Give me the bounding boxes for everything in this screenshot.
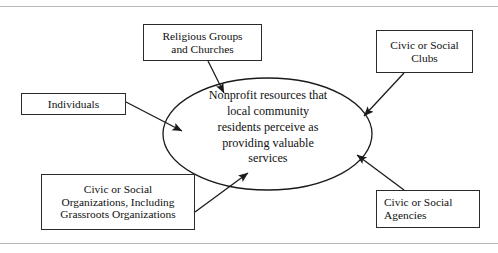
node-organizations-line-2: Organizations, Including	[61, 196, 174, 209]
node-civic-or-social-clubs[interactable]: Civic or Social Clubs	[376, 30, 473, 73]
edge-agencies-to-center	[357, 155, 404, 190]
center-ellipse-label: Nonprofit resources that local community…	[178, 88, 358, 167]
node-civic-or-social-agencies[interactable]: Civic or Social Agencies	[376, 190, 480, 228]
node-clubs-line-2: Clubs	[411, 52, 438, 65]
center-line-4: providing valuable	[178, 136, 358, 152]
node-religious-line-1: Religious Groups	[162, 30, 242, 43]
node-individuals-line-1: Individuals	[48, 98, 99, 111]
node-civic-or-social-organizations[interactable]: Civic or Social Organizations, Including…	[41, 174, 195, 230]
node-individuals[interactable]: Individuals	[21, 93, 126, 115]
node-organizations-line-3: Grassroots Organizations	[60, 208, 175, 221]
node-religious-line-2: and Churches	[171, 43, 233, 56]
edge-clubs-to-center	[364, 73, 404, 116]
center-line-3: residents perceive as	[178, 120, 358, 136]
figure-container: Nonprofit resources that local community…	[0, 0, 498, 253]
center-line-1: Nonprofit resources that	[178, 88, 358, 104]
node-organizations-line-1: Civic or Social	[84, 183, 152, 196]
node-agencies-line-1: Civic or Social	[384, 196, 452, 209]
center-line-5: services	[178, 151, 358, 167]
node-agencies-line-2: Agencies	[384, 209, 426, 222]
node-religious-groups-and-churches[interactable]: Religious Groups and Churches	[143, 24, 262, 61]
node-clubs-line-1: Civic or Social	[390, 39, 458, 52]
center-line-2: local community	[178, 104, 358, 120]
